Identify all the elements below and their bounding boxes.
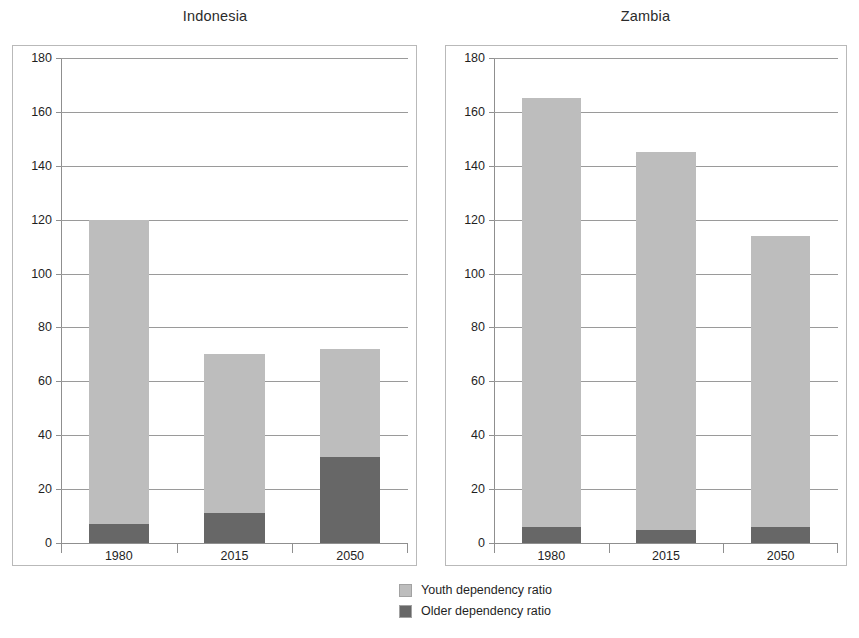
x-tick-mark (407, 543, 408, 553)
gridline (61, 112, 408, 113)
bar-segment-youth (204, 354, 264, 513)
y-tick-mark (489, 435, 494, 436)
y-axis-tick-label: 180 (464, 51, 485, 65)
chart-panel-indonesia: Indonesia 020406080100120140160180 19802… (0, 0, 430, 575)
y-axis-line (61, 58, 62, 543)
y-tick-mark (56, 58, 61, 59)
bar-stack-1980 (522, 98, 582, 543)
legend-label-youth: Youth dependency ratio (421, 583, 552, 597)
x-tick-mark (292, 543, 293, 553)
y-tick-mark (56, 489, 61, 490)
chart-legend: Youth dependency ratio Older dependency … (399, 583, 552, 618)
y-axis-tick-label: 20 (38, 482, 52, 496)
legend-swatch-older (399, 605, 412, 618)
x-tick-mark (837, 543, 838, 553)
y-axis-tick-label: 140 (464, 159, 485, 173)
y-axis-tick-label: 60 (471, 374, 485, 388)
y-axis-tick-label: 40 (38, 428, 52, 442)
y-axis-line (494, 58, 495, 543)
y-axis-tick-label: 100 (31, 267, 52, 281)
bar-segment-older (89, 524, 149, 543)
x-axis-tick-label-1980: 1980 (105, 549, 133, 563)
chart-frame-indonesia: 020406080100120140160180 198020152050 (12, 45, 417, 566)
y-tick-mark (489, 274, 494, 275)
plot-area-indonesia: 020406080100120140160180 (61, 58, 408, 543)
y-tick-mark (56, 327, 61, 328)
y-axis-tick-label: 80 (38, 320, 52, 334)
bar-segment-youth (751, 236, 811, 527)
x-axis-tick-label-2015: 2015 (652, 549, 680, 563)
y-tick-mark (56, 112, 61, 113)
bar-segment-youth (89, 220, 149, 524)
bar-segment-older (751, 527, 811, 543)
bar-segment-youth (636, 152, 696, 529)
legend-item-older: Older dependency ratio (399, 604, 552, 618)
gridline (61, 166, 408, 167)
legend-item-youth: Youth dependency ratio (399, 583, 552, 597)
y-tick-mark (489, 220, 494, 221)
bar-segment-older (522, 527, 582, 543)
bar-stack-1980 (89, 220, 149, 543)
y-tick-mark (489, 58, 494, 59)
x-axis-tick-label-2050: 2050 (336, 549, 364, 563)
y-axis-tick-label: 160 (31, 105, 52, 119)
y-axis-tick-label: 120 (31, 213, 52, 227)
y-tick-mark (56, 435, 61, 436)
y-tick-mark (489, 327, 494, 328)
bar-stack-2050 (751, 236, 811, 543)
bar-segment-older (204, 513, 264, 543)
chart-panel-zambia: Zambia 020406080100120140160180 19802015… (432, 0, 859, 575)
y-axis-tick-label: 100 (464, 267, 485, 281)
legend-swatch-youth (399, 584, 412, 597)
y-axis-tick-label: 20 (471, 482, 485, 496)
y-axis-tick-label: 180 (31, 51, 52, 65)
y-tick-mark (56, 381, 61, 382)
y-axis-tick-label: 40 (471, 428, 485, 442)
x-axis-tick-label-2050: 2050 (767, 549, 795, 563)
legend-label-older: Older dependency ratio (421, 604, 551, 618)
chart-title-indonesia: Indonesia (0, 8, 430, 24)
bar-segment-youth (522, 98, 582, 526)
x-tick-mark (609, 543, 610, 553)
bar-stack-2050 (320, 349, 380, 543)
y-tick-mark (489, 381, 494, 382)
x-axis-tick-label-1980: 1980 (537, 549, 565, 563)
y-tick-mark (489, 166, 494, 167)
x-axis-indonesia (61, 543, 408, 544)
y-axis-tick-label: 80 (471, 320, 485, 334)
bar-segment-youth (320, 349, 380, 457)
bar-segment-older (636, 530, 696, 543)
y-axis-tick-label: 0 (478, 536, 485, 550)
chart-title-zambia: Zambia (432, 8, 859, 24)
bar-segment-older (320, 457, 380, 543)
y-tick-mark (56, 220, 61, 221)
y-tick-mark (489, 112, 494, 113)
x-axis-tick-label-2015: 2015 (221, 549, 249, 563)
gridline (494, 58, 838, 59)
y-axis-tick-label: 160 (464, 105, 485, 119)
x-tick-mark (723, 543, 724, 553)
y-axis-tick-label: 120 (464, 213, 485, 227)
bar-stack-2015 (636, 152, 696, 543)
y-tick-mark (56, 274, 61, 275)
x-tick-mark (61, 543, 62, 553)
y-tick-mark (489, 489, 494, 490)
x-axis-zambia (494, 543, 838, 544)
y-axis-tick-label: 0 (45, 536, 52, 550)
gridline (61, 58, 408, 59)
bar-stack-2015 (204, 354, 264, 543)
y-tick-mark (56, 166, 61, 167)
y-axis-tick-label: 60 (38, 374, 52, 388)
x-tick-mark (177, 543, 178, 553)
plot-area-zambia: 020406080100120140160180 (494, 58, 838, 543)
x-tick-mark (494, 543, 495, 553)
chart-frame-zambia: 020406080100120140160180 198020152050 (445, 45, 847, 566)
y-axis-tick-label: 140 (31, 159, 52, 173)
